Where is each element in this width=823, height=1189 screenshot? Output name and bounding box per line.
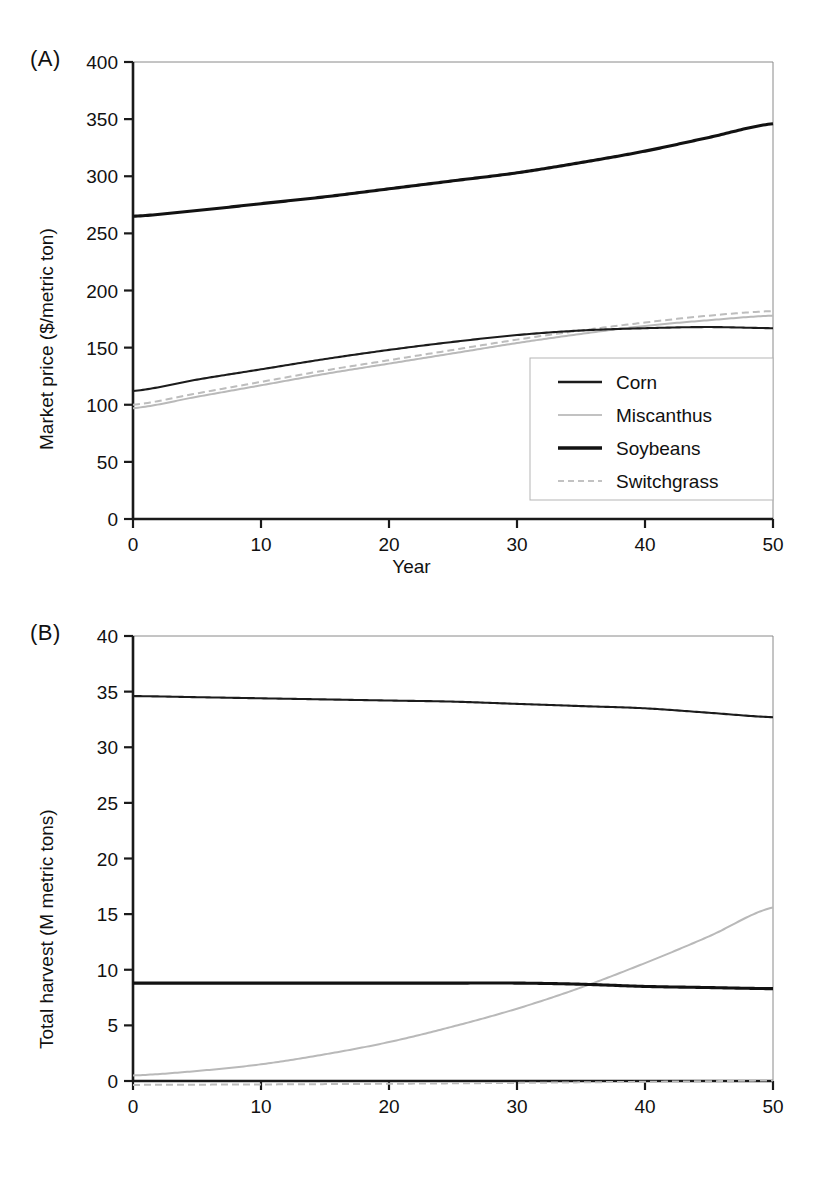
- series-line-soybeans: [133, 124, 773, 217]
- y-tick-label: 0: [107, 509, 118, 530]
- y-tick-label: 5: [107, 1015, 118, 1036]
- y-tick-label: 40: [97, 626, 118, 647]
- y-tick-label: 250: [86, 223, 118, 244]
- y-tick-label: 200: [86, 281, 118, 302]
- y-tick-label: 10: [97, 960, 118, 981]
- y-tick-label: 300: [86, 166, 118, 187]
- panel-a-plot: 05010015020025030035040001020304050CornM…: [0, 0, 823, 600]
- legend-label-miscanthus: Miscanthus: [616, 405, 712, 426]
- x-tick-label: 40: [634, 1096, 655, 1117]
- x-tick-label: 50: [762, 1096, 783, 1117]
- x-tick-label: 0: [128, 534, 139, 555]
- x-tick-label: 0: [128, 1096, 139, 1117]
- y-tick-label: 400: [86, 52, 118, 73]
- y-tick-label: 350: [86, 109, 118, 130]
- y-tick-label: 50: [97, 452, 118, 473]
- x-tick-label: 30: [506, 534, 527, 555]
- series-line-miscanthus: [133, 907, 773, 1075]
- legend-label-switchgrass: Switchgrass: [616, 471, 718, 492]
- x-tick-label: 30: [506, 1096, 527, 1117]
- y-tick-label: 30: [97, 737, 118, 758]
- y-tick-label: 0: [107, 1071, 118, 1092]
- legend-label-soybeans: Soybeans: [616, 438, 701, 459]
- x-tick-label: 50: [762, 534, 783, 555]
- x-tick-label: 20: [378, 534, 399, 555]
- panel-a: (A) Market price ($/metric ton) Year 050…: [0, 0, 823, 600]
- y-tick-label: 15: [97, 904, 118, 925]
- x-tick-label: 10: [250, 534, 271, 555]
- y-tick-label: 25: [97, 793, 118, 814]
- y-tick-label: 100: [86, 395, 118, 416]
- x-tick-label: 40: [634, 534, 655, 555]
- figure: (A) Market price ($/metric ton) Year 050…: [0, 0, 823, 1189]
- series-line-corn: [133, 696, 773, 717]
- y-tick-label: 150: [86, 338, 118, 359]
- x-tick-label: 20: [378, 1096, 399, 1117]
- panel-b-plot: 051015202530354001020304050: [0, 589, 823, 1189]
- x-tick-label: 10: [250, 1096, 271, 1117]
- legend-label-corn: Corn: [616, 372, 657, 393]
- y-tick-label: 35: [97, 682, 118, 703]
- panel-b: (B) Total harvest (M metric tons) Year 0…: [0, 589, 823, 1189]
- series-line-soybeans: [133, 983, 773, 989]
- y-tick-label: 20: [97, 849, 118, 870]
